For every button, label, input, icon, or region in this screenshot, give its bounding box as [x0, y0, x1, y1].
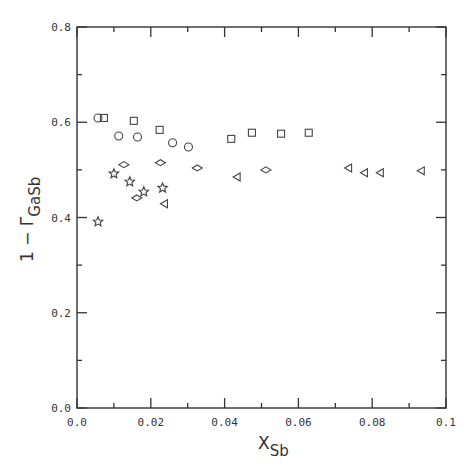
- x-tick-label: 0.06: [285, 416, 312, 429]
- x-axis-label: XSb: [258, 433, 289, 460]
- y-tick-labels: 0.00.20.40.60.8: [51, 21, 71, 415]
- circle-marker: [115, 132, 123, 140]
- star-marker: [125, 177, 135, 186]
- y-tick-label: 0.0: [51, 402, 71, 415]
- square-marker: [156, 126, 163, 133]
- y-axis-label-sub: GaSb: [26, 177, 44, 217]
- square-marker: [130, 117, 137, 124]
- triangle-marker: [417, 167, 424, 175]
- x-axis-label-sub: Sb: [270, 442, 289, 460]
- star-marker: [93, 217, 103, 226]
- y-tick-label: 0.4: [51, 212, 71, 225]
- triangle-marker: [345, 164, 352, 172]
- diamond-marker: [261, 167, 271, 173]
- triangle-marker: [160, 200, 167, 208]
- diamond-marker: [192, 165, 202, 171]
- plot-border: [77, 27, 446, 408]
- triangle-marker: [376, 169, 383, 177]
- x-tick-label: 0.02: [138, 416, 165, 429]
- x-tick-label: 0.0: [67, 416, 87, 429]
- square-marker: [248, 129, 255, 136]
- y-axis-label-main: 1 − Γ: [17, 216, 37, 262]
- circle-marker: [169, 139, 177, 147]
- diamond-marker: [155, 160, 165, 166]
- x-tick-label: 0.04: [211, 416, 238, 429]
- x-axis-label-main: X: [258, 433, 270, 453]
- star-marker: [109, 169, 119, 178]
- square-marker: [278, 130, 285, 137]
- y-tick-label: 0.8: [51, 21, 71, 34]
- scatter-chart: 0.00.020.040.060.080.1 0.00.20.40.60.8 X…: [0, 0, 472, 472]
- triangle-marker: [233, 173, 240, 181]
- plot-frame: [77, 27, 446, 408]
- x-tick-label: 0.08: [359, 416, 386, 429]
- square-marker: [228, 135, 235, 142]
- y-axis-label: 1 − ΓGaSb: [17, 177, 44, 262]
- square-marker: [305, 129, 312, 136]
- diamond-marker: [119, 162, 129, 168]
- circle-marker: [134, 133, 142, 141]
- y-tick-label: 0.6: [51, 116, 71, 129]
- axis-ticks: [77, 27, 446, 408]
- circle-marker: [184, 143, 192, 151]
- y-tick-label: 0.2: [51, 307, 71, 320]
- triangle-marker: [360, 169, 367, 177]
- x-tick-label: 0.1: [436, 416, 456, 429]
- x-tick-labels: 0.00.020.040.060.080.1: [67, 416, 456, 429]
- star-marker: [139, 187, 149, 196]
- star-marker: [158, 183, 168, 192]
- data-points: [93, 114, 424, 226]
